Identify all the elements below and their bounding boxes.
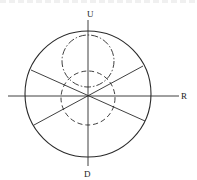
circle-diagram: U D R	[0, 0, 197, 180]
diagonal-line-2	[34, 66, 143, 125]
label-right: R	[181, 91, 187, 101]
label-up: U	[87, 9, 94, 19]
label-down: D	[84, 169, 91, 179]
